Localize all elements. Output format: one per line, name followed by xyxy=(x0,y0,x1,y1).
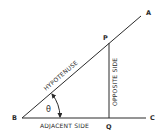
hypotenuse-line-ba xyxy=(22,16,141,118)
angle-arc xyxy=(52,94,60,117)
point-label-q: Q xyxy=(106,123,112,131)
hypotenuse-label: HYPOTENUSE xyxy=(42,59,79,92)
point-label-c: C xyxy=(150,114,155,122)
triangle-diagram: A B C P Q θ ADJACENT SIDE HYPOTENUSE OPP… xyxy=(0,0,168,137)
adjacent-side-label: ADJACENT SIDE xyxy=(40,122,89,130)
point-label-a: A xyxy=(146,9,151,17)
point-label-p: P xyxy=(103,34,108,42)
angle-theta-label: θ xyxy=(46,105,51,114)
point-label-b: B xyxy=(12,114,17,122)
opposite-side-label: OPPOSITE SIDE xyxy=(111,58,118,106)
